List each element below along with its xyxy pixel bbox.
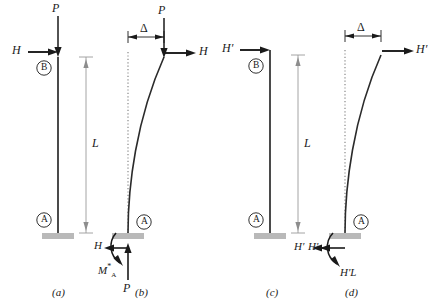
dimension-arrowhead-bottom-c — [295, 222, 300, 231]
figure-a: P H B A L (a) — [0, 0, 110, 306]
base-moment-label-b: M*A — [98, 262, 116, 279]
fixed-support-c — [254, 233, 286, 239]
figure-caption-c: (c) — [266, 286, 278, 298]
dimension-arrowhead-bottom-a — [83, 222, 88, 231]
base-shear-label-d: H′ — [308, 240, 318, 252]
figure-caption-a: (a) — [52, 286, 65, 298]
axial-load-label-b: P — [158, 3, 165, 18]
delta-arrowhead-left-b — [128, 35, 137, 40]
base-moment-arrowhead-d — [331, 256, 341, 267]
node-label-b-c: B — [253, 60, 259, 70]
figure-d: H′ Δ A H′ H′L (d) — [312, 0, 434, 306]
lateral-load-arrowhead-b — [186, 49, 196, 56]
base-shear-label-c: H′ — [294, 240, 304, 252]
node-label-a-c: A — [253, 214, 260, 224]
base-axial-label-b: P — [123, 281, 130, 296]
figure-caption-b: (b) — [135, 286, 148, 298]
delta-label-b: Δ — [140, 21, 148, 36]
node-label-b-a: B — [41, 62, 47, 72]
dimension-arrowhead-top-c — [295, 57, 300, 66]
lateral-load-arrowhead-d — [404, 47, 414, 54]
delta-label-d: Δ — [357, 20, 365, 35]
node-label-a-a: A — [41, 214, 48, 224]
dimension-label-l-c: L — [304, 136, 311, 151]
delta-arrowhead-left-d — [345, 34, 354, 39]
fixed-support-a — [42, 233, 74, 239]
figure-caption-d: (d) — [345, 286, 358, 298]
axial-load-label-a: P — [52, 1, 59, 16]
delta-arrowhead-right-d — [372, 34, 381, 39]
lateral-load-label-a: H — [12, 43, 21, 58]
figure-b: P H Δ A H M*A P (b) — [96, 0, 214, 306]
lateral-load-label-d: H′ — [416, 42, 427, 57]
lateral-load-arrowhead-c — [260, 46, 270, 53]
figure-b-drawing — [96, 0, 214, 306]
deflected-column-b — [128, 57, 164, 233]
node-label-a-d: A — [358, 216, 365, 226]
lateral-load-label-b: H — [199, 44, 208, 59]
base-shear-label-b: H — [94, 239, 102, 251]
lateral-load-label-c: H′ — [222, 41, 233, 56]
base-shear-arrowhead-b — [104, 244, 114, 251]
deflected-column-d — [345, 55, 381, 233]
node-label-a-b: A — [141, 216, 148, 226]
base-moment-label-d: H′L — [340, 266, 356, 278]
fixed-support-d — [329, 233, 361, 239]
dimension-arrowhead-top-a — [83, 59, 88, 68]
fixed-support-b — [112, 233, 144, 239]
delta-arrowhead-right-b — [155, 35, 164, 40]
